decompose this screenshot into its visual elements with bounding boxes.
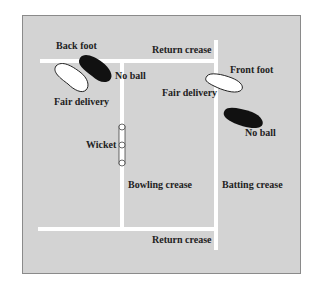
- label-batting-crease: Batting crease: [222, 179, 283, 190]
- wicket-icon: [119, 124, 125, 166]
- label-fair-delivery-front: Fair delivery: [162, 87, 217, 98]
- label-wicket: Wicket: [86, 139, 116, 150]
- label-bowling-crease: Bowling crease: [128, 179, 192, 190]
- label-no-ball-back: No ball: [115, 70, 146, 81]
- label-back-foot: Back foot: [56, 40, 97, 51]
- label-return-crease-top: Return crease: [152, 44, 212, 55]
- label-fair-delivery-back: Fair delivery: [54, 96, 109, 107]
- label-front-foot: Front foot: [230, 64, 273, 75]
- label-no-ball-front: No ball: [245, 127, 276, 138]
- no-ball-front-foot-icon: [224, 108, 263, 128]
- label-return-crease-bottom: Return crease: [152, 234, 212, 245]
